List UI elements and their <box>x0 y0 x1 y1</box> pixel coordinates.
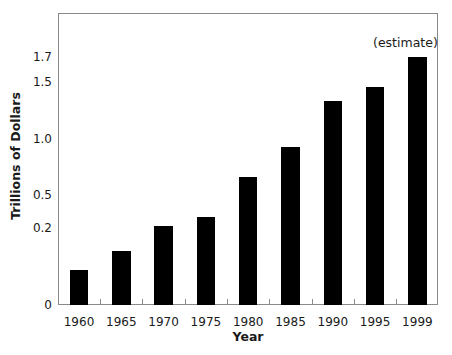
bar-1965 <box>112 251 131 305</box>
x-tick-mark <box>100 299 101 305</box>
x-tick-label: 1990 <box>318 315 349 329</box>
x-tick-label: 1999 <box>402 315 433 329</box>
y-tick-label: 0 <box>44 298 52 312</box>
y-tick-label: 1.7 <box>33 50 52 64</box>
x-tick-mark <box>185 299 186 305</box>
x-tick-mark <box>227 299 228 305</box>
x-tick-mark <box>312 299 313 305</box>
bar-1985 <box>281 147 300 305</box>
bar-1960 <box>70 270 89 305</box>
x-tick-mark <box>269 299 270 305</box>
y-tick-label: 0.5 <box>33 188 52 202</box>
bar-1970 <box>154 226 173 305</box>
bar-1975 <box>197 217 216 305</box>
x-tick-mark <box>396 299 397 305</box>
bar-chart: 00.20.51.01.51.7 19601965197019751980198… <box>0 0 452 355</box>
x-tick-label: 1985 <box>275 315 306 329</box>
x-tick-mark <box>142 299 143 305</box>
y-axis-title: Trillions of Dollars <box>8 92 23 220</box>
x-tick-label: 1960 <box>64 315 95 329</box>
bar-1990 <box>324 101 343 305</box>
x-tick-label: 1965 <box>106 315 137 329</box>
x-tick-label: 1980 <box>233 315 264 329</box>
y-tick-label: 0.2 <box>33 221 52 235</box>
bar-1980 <box>239 177 258 305</box>
y-tick-label: 1.5 <box>33 75 52 89</box>
y-tick-label: 1.0 <box>33 132 52 146</box>
x-tick-label: 1975 <box>191 315 222 329</box>
x-tick-mark <box>354 299 355 305</box>
bar-1995 <box>366 87 385 305</box>
estimate-annotation: (estimate) <box>373 35 438 50</box>
bar-1999 <box>408 57 427 305</box>
x-axis-title: Year <box>233 329 264 344</box>
x-tick-label: 1995 <box>360 315 391 329</box>
x-tick-label: 1970 <box>148 315 179 329</box>
